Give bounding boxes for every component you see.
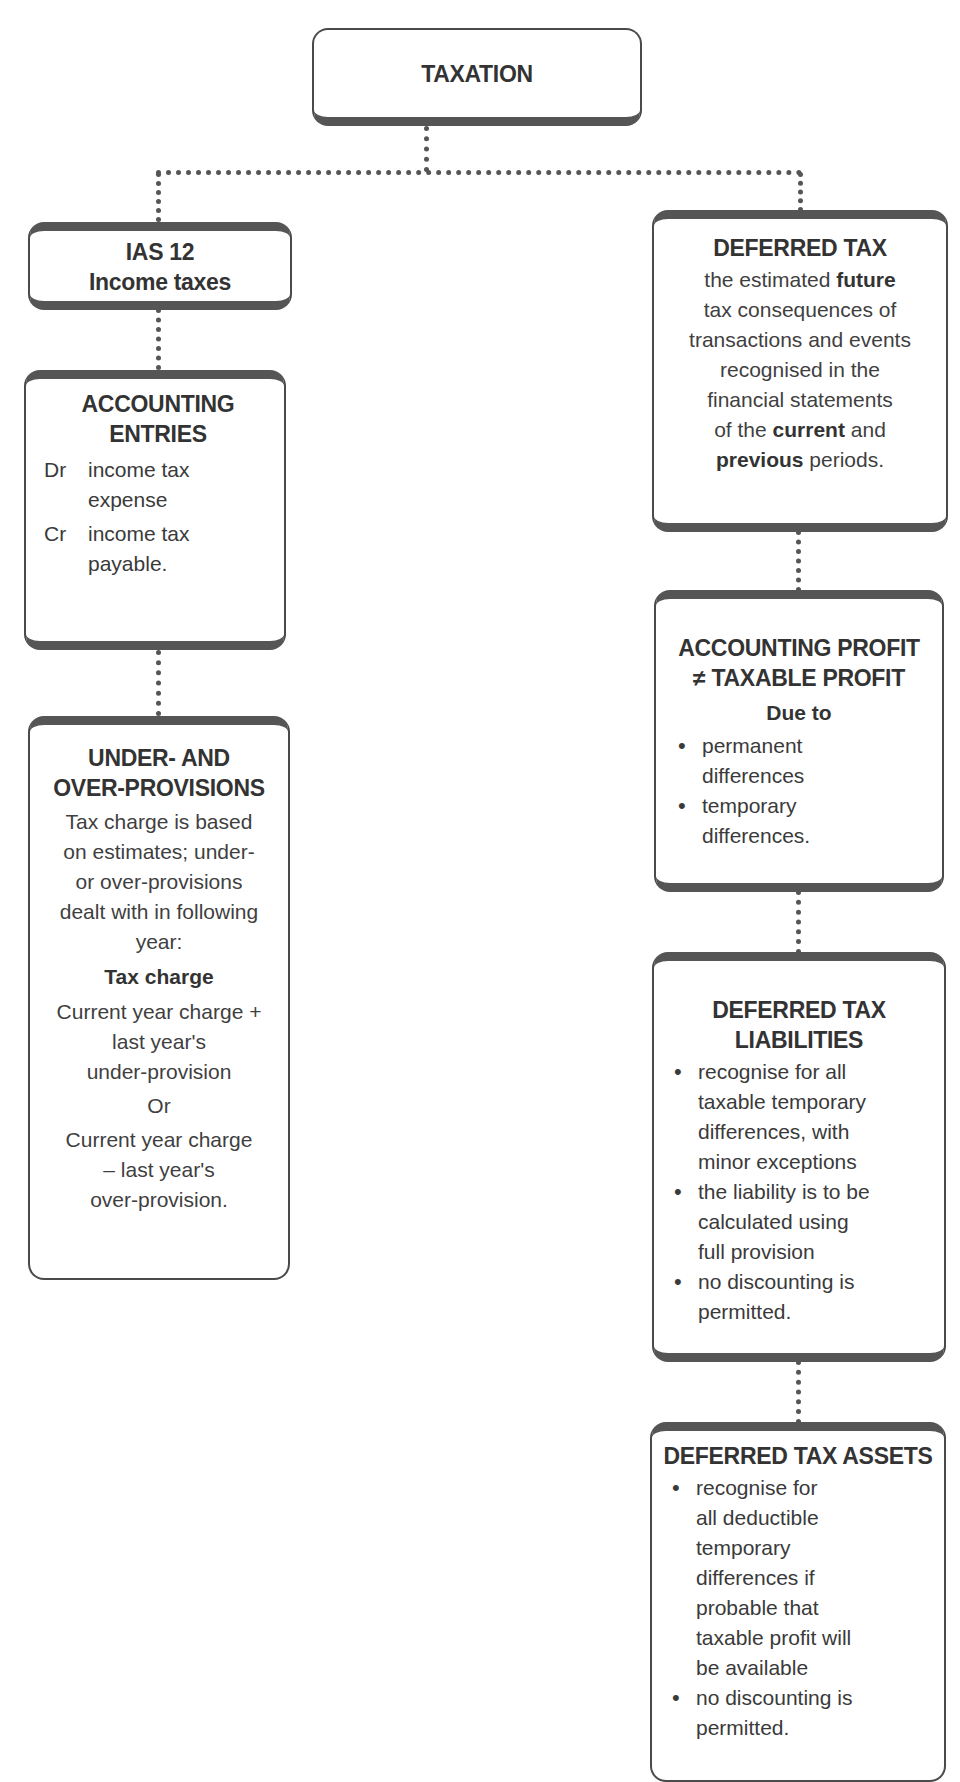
entry-debit: Dr income taxexpense — [44, 455, 272, 515]
list-item: recognise forall deductibletemporarydiff… — [672, 1473, 944, 1683]
ias12-box: IAS 12 Income taxes — [28, 222, 292, 310]
connector-right-down — [798, 172, 803, 212]
tax-charge-heading: Tax charge — [34, 961, 284, 993]
taxation-root-box: TAXATION — [312, 28, 642, 126]
provisions-intro: Tax charge is based on estimates; under-… — [34, 807, 284, 957]
list-item: the liability is to becalculated usingfu… — [674, 1177, 944, 1267]
list-item: permanentdifferences — [678, 731, 942, 791]
entries-title-2: ENTRIES — [44, 419, 272, 449]
due-to-heading: Due to — [656, 697, 942, 729]
accounting-entries-box: ACCOUNTING ENTRIES Dr income taxexpense … — [24, 370, 286, 650]
connector-entries-to-provisions — [156, 650, 161, 716]
root-title: TAXATION — [421, 59, 533, 89]
list-item: temporarydifferences. — [678, 791, 942, 851]
under-over-provisions-box: UNDER- AND OVER-PROVISIONS Tax charge is… — [28, 716, 290, 1280]
assets-list: recognise forall deductibletemporarydiff… — [652, 1473, 944, 1743]
connector-profit-to-liabilities — [796, 890, 801, 954]
deferred-tax-definition: the estimated future tax consequences of… — [654, 265, 946, 475]
list-item: no discounting ispermitted. — [674, 1267, 944, 1327]
ias12-subtitle: Income taxes — [30, 267, 290, 297]
or-label: Or — [34, 1091, 284, 1121]
difference-list: permanentdifferences temporarydifference… — [656, 731, 942, 851]
deferred-tax-assets-box: DEFERRED TAX ASSETS recognise forall ded… — [650, 1422, 946, 1782]
deferred-tax-liabilities-box: DEFERRED TAX LIABILITIES recognise for a… — [652, 952, 946, 1362]
entries-title: ACCOUNTING — [44, 389, 272, 419]
option-over-provision: Current year charge – last year's over-p… — [34, 1125, 284, 1215]
connector-root-down — [424, 126, 429, 172]
list-item: recognise for alltaxable temporarydiffer… — [674, 1057, 944, 1177]
entry-credit: Cr income taxpayable. — [44, 519, 272, 579]
accounting-profit-box: ACCOUNTING PROFIT ≠ TAXABLE PROFIT Due t… — [654, 590, 944, 892]
connector-ias-to-entries — [156, 308, 161, 370]
connector-deferred-to-profit — [796, 530, 801, 592]
connector-branch-horizontal — [156, 170, 802, 175]
list-item: no discounting ispermitted. — [672, 1683, 944, 1743]
liabilities-list: recognise for alltaxable temporarydiffer… — [654, 1057, 944, 1327]
connector-left-down — [156, 172, 161, 222]
ias12-title: IAS 12 — [30, 237, 290, 267]
connector-liabilities-to-assets — [796, 1360, 801, 1424]
option-under-provision: Current year charge + last year's under-… — [34, 997, 284, 1087]
deferred-tax-box: DEFERRED TAX the estimated future tax co… — [652, 210, 948, 532]
